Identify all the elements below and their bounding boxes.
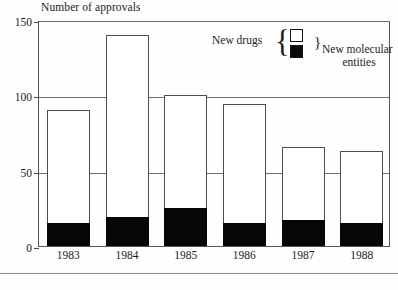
bar-segment-new-molecular-entities [164, 208, 207, 246]
bar-segment-new-molecular-entities [106, 217, 149, 246]
legend-label-new-molecular-entities: New molecular entities [322, 43, 398, 69]
y-axis-tick-label: 150 [15, 16, 32, 28]
legend-label-nme-line1: New molecular [322, 43, 393, 55]
chart-figure: Number of approvals 15010050019831984198… [0, 0, 398, 290]
y-axis-tick-mark [34, 248, 39, 249]
bar-segment-new-molecular-entities [340, 223, 383, 246]
x-axis-label-1985: 1985 [164, 249, 207, 261]
legend-brace-close: } [314, 35, 321, 50]
legend-label-nme-line2: entities [322, 56, 398, 69]
bar-segment-new-molecular-entities [223, 223, 266, 246]
y-axis-tick-mark [34, 97, 39, 98]
x-axis-label-1984: 1984 [106, 249, 149, 261]
x-axis-label-1983: 1983 [47, 249, 90, 261]
gridline [39, 173, 389, 174]
bar-group: 1985 [164, 20, 207, 246]
x-axis-label-1986: 1986 [223, 249, 266, 261]
y-axis-tick-mark [34, 22, 39, 23]
y-axis-tick-label: 100 [15, 91, 32, 103]
legend-brace-open: { [275, 26, 290, 57]
chart-legend: New drugs { } New molecular entities [212, 28, 384, 82]
bar-segment-new-drugs [106, 35, 149, 246]
legend-swatch-new-molecular-entities [290, 45, 303, 58]
bar-segment-new-molecular-entities [47, 223, 90, 246]
bar-segment-new-molecular-entities [282, 220, 325, 246]
bar-group: 1983 [47, 20, 90, 246]
y-axis-tick-label: 0 [26, 242, 32, 254]
legend-swatch-new-drugs [290, 29, 303, 42]
y-axis-title: Number of approvals [41, 1, 141, 13]
x-axis-label-1987: 1987 [282, 249, 325, 261]
gridline [39, 97, 389, 98]
legend-label-new-drugs: New drugs [212, 34, 262, 46]
page-divider [0, 273, 398, 274]
y-axis-tick-label: 50 [21, 167, 33, 179]
y-axis-tick-mark [34, 173, 39, 174]
x-axis-label-1988: 1988 [340, 249, 383, 261]
bar-group: 1984 [106, 20, 149, 246]
